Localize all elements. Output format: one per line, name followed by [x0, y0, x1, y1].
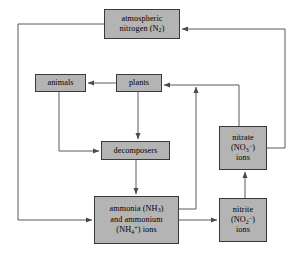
animals-label: animals	[47, 78, 73, 88]
edge-atmospheric-to-ammonia	[18, 24, 104, 220]
nitrate-box[interactable]: nitrate (NO3−) ions	[219, 126, 267, 170]
nitrate-line-1: nitrate	[232, 133, 254, 143]
nitrogen-cycle-diagram: atmospheric nitrogen (N2) animals plants…	[0, 0, 301, 261]
ammonia-line-3: (NH4+) ions	[116, 225, 156, 236]
edge-ammonia-to-plants	[179, 87, 196, 209]
nitrite-line-1: nitrite	[233, 205, 253, 215]
nitrate-line-3: ions	[236, 153, 250, 163]
nitrate-line-2: (NO3−)	[231, 143, 255, 154]
animals-box[interactable]: animals	[35, 74, 86, 92]
plants-label: plants	[129, 78, 149, 88]
ammonia-line-2: and ammonium	[110, 215, 162, 225]
edge-nitrate-to-plants	[164, 85, 239, 126]
decomposers-box[interactable]: decomposers	[101, 141, 170, 160]
nitrite-line-3: ions	[236, 225, 250, 235]
nitrite-line-2: (NO2−)	[231, 215, 255, 226]
atmospheric-nitrogen-box[interactable]: atmospheric nitrogen (N2)	[104, 9, 180, 39]
atmospheric-nitrogen-line-1: atmospheric	[121, 14, 162, 24]
atmospheric-nitrogen-line-2: nitrogen (N2)	[120, 24, 165, 35]
decomposers-label: decomposers	[114, 146, 158, 156]
ammonia-ammonium-box[interactable]: ammonia (NH3) and ammonium (NH4+) ions	[94, 196, 179, 244]
plants-box[interactable]: plants	[116, 74, 162, 92]
edge-animals-to-decomposers	[59, 92, 99, 151]
ammonia-line-1: ammonia (NH3)	[109, 204, 163, 215]
nitrite-box[interactable]: nitrite (NO2−) ions	[219, 198, 267, 242]
